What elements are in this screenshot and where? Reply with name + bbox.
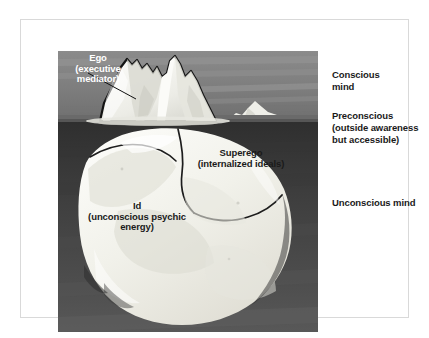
- iceberg-illustration: [58, 51, 318, 332]
- legend-conscious-line1: Conscious: [332, 69, 380, 80]
- label-ego-line1: Ego: [89, 52, 107, 63]
- label-superego: Superego(internalized ideals): [185, 148, 297, 169]
- legend-item-preconscious: Preconscious(outside awarenessbut access…: [332, 110, 418, 146]
- figure-frame: Ego(executivemediator) Superego(internal…: [20, 19, 409, 318]
- label-id: Id(unconscious psychicenergy): [81, 201, 193, 233]
- iceberg-artwork-svg: [58, 51, 318, 332]
- label-id-line2: (unconscious psychic: [88, 211, 186, 222]
- label-superego-line2: (internalized ideals): [198, 158, 285, 169]
- label-ego: Ego(executivemediator): [62, 53, 134, 85]
- legend-item-conscious-mind: Consciousmind: [332, 69, 380, 93]
- legend-preconscious-line1: Preconscious: [332, 110, 393, 121]
- label-id-line1: Id: [133, 200, 141, 211]
- legend-item-unconscious-mind: Unconscious mind: [332, 197, 415, 209]
- label-superego-line1: Superego: [219, 147, 262, 158]
- legend-preconscious-line2: (outside awareness: [332, 122, 418, 133]
- figure-root: Ego(executivemediator) Superego(internal…: [0, 0, 429, 338]
- waterline-splash: [86, 117, 230, 127]
- label-ego-line3: mediator): [77, 73, 119, 84]
- legend-preconscious-line3: but accessible): [332, 134, 399, 145]
- legend-unconscious-line1: Unconscious mind: [332, 197, 415, 208]
- label-id-line3: energy): [120, 221, 154, 232]
- label-ego-line2: (executive: [75, 63, 120, 74]
- legend-conscious-line2: mind: [332, 81, 354, 92]
